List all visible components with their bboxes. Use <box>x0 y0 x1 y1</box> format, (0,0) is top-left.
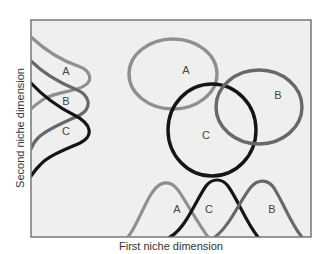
niche-label-B: B <box>274 89 281 101</box>
y-dist-label-B: B <box>62 95 69 107</box>
niche-diagram: A B C A B C A C B First niche dimension … <box>0 0 325 254</box>
x-dist-label-C: C <box>205 203 213 215</box>
x-dist-label-B: B <box>268 203 275 215</box>
y-dist-label-A: A <box>62 65 70 77</box>
x-axis-label: First niche dimension <box>119 240 223 252</box>
niche-label-C: C <box>202 129 210 141</box>
y-axis-label: Second niche dimension <box>14 68 26 188</box>
y-dist-label-C: C <box>62 125 70 137</box>
niche-label-A: A <box>182 64 190 76</box>
x-dist-label-A: A <box>173 203 181 215</box>
